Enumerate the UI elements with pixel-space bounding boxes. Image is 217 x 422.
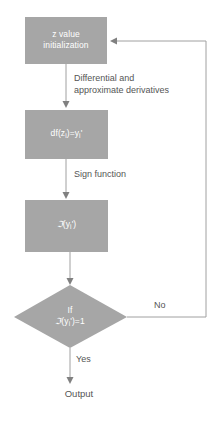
connector-decision-output-arrowhead <box>67 377 74 384</box>
node-decision-shape[interactable] <box>14 285 127 348</box>
edge-label-sign-function: Sign function <box>74 168 174 180</box>
connector-init-derivative-arrowhead <box>63 101 70 108</box>
edge-label-no: No <box>154 299 184 311</box>
edge-label-yes: Yes <box>76 353 116 365</box>
connector-derivative-sign-arrowhead <box>63 192 70 199</box>
flowchart-canvas: z value initialization df(zi)=yi' ℑ(yi')… <box>0 0 217 422</box>
node-output-label: Output <box>44 388 114 400</box>
node-derivative-shape[interactable] <box>25 110 108 159</box>
node-init-shape[interactable] <box>25 17 107 64</box>
connector-decision-init-arrowhead <box>110 38 117 45</box>
node-sign-shape[interactable] <box>25 200 108 252</box>
edge-label-differential-approximate-derivatives: Differential and approximate derivatives <box>74 72 214 96</box>
connector-sign-decision-arrowhead <box>67 278 74 285</box>
